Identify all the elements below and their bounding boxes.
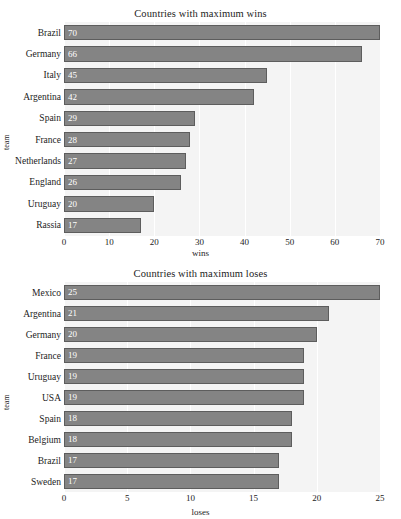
bar[interactable]: 21 <box>64 306 329 321</box>
y-tick-label: Sweden <box>31 477 61 487</box>
bar-row[interactable]: 18 <box>64 411 380 426</box>
bar-row[interactable]: 66 <box>64 46 380 61</box>
bar[interactable]: 25 <box>64 285 380 300</box>
bar-value-label: 17 <box>68 221 77 230</box>
y-tick-slot: Netherlands <box>0 150 61 171</box>
bar[interactable]: 18 <box>64 432 292 447</box>
y-tick-label: Netherlands <box>15 156 61 166</box>
y-tick-slot: Mexico <box>0 282 61 303</box>
bar[interactable]: 20 <box>64 196 154 211</box>
bar-row[interactable]: 17 <box>64 453 380 468</box>
y-tick-label: France <box>35 351 61 361</box>
y-tick-slot: Brazil <box>0 450 61 471</box>
y-tick-label: Uruguay <box>28 372 61 382</box>
bar-row[interactable]: 26 <box>64 175 380 190</box>
y-tick-slot: Argentina <box>0 86 61 107</box>
bar[interactable]: 17 <box>64 474 279 489</box>
x-tick-label: 40 <box>240 237 249 247</box>
x-tick-label: 5 <box>125 493 130 503</box>
bar[interactable]: 18 <box>64 411 292 426</box>
y-tick-slot: Rassia <box>0 215 61 236</box>
bar-value-label: 19 <box>68 351 77 360</box>
y-tick-label: France <box>35 135 61 145</box>
bar[interactable]: 27 <box>64 153 186 168</box>
bar-value-label: 66 <box>68 50 77 59</box>
y-tick-slot: France <box>0 129 61 150</box>
y-tick-slot: Uruguay <box>0 193 61 214</box>
bar[interactable]: 28 <box>64 132 190 147</box>
bar-row[interactable]: 19 <box>64 390 380 405</box>
bar[interactable]: 19 <box>64 369 304 384</box>
x-axis-tick-labels-loses: 0510152025 <box>64 493 380 507</box>
x-tick-label: 0 <box>62 237 67 247</box>
bar-value-label: 27 <box>68 157 77 166</box>
bar-value-label: 28 <box>68 135 77 144</box>
plot-area-loses: 25212019191918181717 <box>64 282 380 492</box>
y-tick-slot: Germany <box>0 43 61 64</box>
bar-row[interactable]: 42 <box>64 89 380 104</box>
bar-row[interactable]: 27 <box>64 153 380 168</box>
y-tick-slot: Argentina <box>0 303 61 324</box>
bar-row[interactable]: 20 <box>64 327 380 342</box>
bar[interactable]: 20 <box>64 327 317 342</box>
chart-countries-maximum-wins: Countries with maximum wins team BrazilG… <box>0 0 401 262</box>
y-tick-slot: Spain <box>0 408 61 429</box>
bar-value-label: 20 <box>68 330 77 339</box>
x-tick-label: 20 <box>150 237 159 247</box>
bar[interactable]: 19 <box>64 390 304 405</box>
bar-row[interactable]: 18 <box>64 432 380 447</box>
y-axis-tick-labels-wins: BrazilGermanyItalyArgentinaSpainFranceNe… <box>0 22 61 236</box>
y-tick-label: Germany <box>26 49 61 59</box>
y-tick-slot: Belgium <box>0 429 61 450</box>
bar-row[interactable]: 17 <box>64 218 380 233</box>
bar-value-label: 17 <box>68 456 77 465</box>
bar-row[interactable]: 45 <box>64 68 380 83</box>
bar-row[interactable]: 17 <box>64 474 380 489</box>
bar-value-label: 20 <box>68 199 77 208</box>
chart-title-loses: Countries with maximum loses <box>0 268 401 279</box>
y-tick-label: USA <box>42 393 61 403</box>
bar-row[interactable]: 19 <box>64 369 380 384</box>
bar-value-label: 29 <box>68 114 77 123</box>
y-tick-label: Argentina <box>23 309 61 319</box>
bar[interactable]: 29 <box>64 111 195 126</box>
y-tick-slot: Germany <box>0 324 61 345</box>
bar-row[interactable]: 20 <box>64 196 380 211</box>
y-tick-slot: France <box>0 345 61 366</box>
bar-value-label: 18 <box>68 414 77 423</box>
x-tick-label: 50 <box>285 237 294 247</box>
x-axis-label-wins: wins <box>0 248 401 258</box>
bar[interactable]: 66 <box>64 46 362 61</box>
bar-value-label: 70 <box>68 28 77 37</box>
x-tick-label: 30 <box>195 237 204 247</box>
y-tick-label: Mexico <box>32 288 61 298</box>
bar-row[interactable]: 70 <box>64 25 380 40</box>
y-tick-slot: Uruguay <box>0 366 61 387</box>
bar-row[interactable]: 19 <box>64 348 380 363</box>
figure-two-bar-charts: Countries with maximum wins team BrazilG… <box>0 0 401 519</box>
bar[interactable]: 26 <box>64 175 181 190</box>
bar[interactable]: 45 <box>64 68 267 83</box>
bar-row[interactable]: 28 <box>64 132 380 147</box>
bar-row[interactable]: 29 <box>64 111 380 126</box>
bar[interactable]: 17 <box>64 218 141 233</box>
bar-row[interactable]: 21 <box>64 306 380 321</box>
y-tick-label: Germany <box>26 330 61 340</box>
y-tick-label: Spain <box>39 113 61 123</box>
y-axis-tick-labels-loses: MexicoArgentinaGermanyFranceUruguayUSASp… <box>0 282 61 492</box>
bar[interactable]: 19 <box>64 348 304 363</box>
chart-title-wins: Countries with maximum wins <box>0 8 401 19</box>
bar-value-label: 19 <box>68 372 77 381</box>
y-tick-label: Brazil <box>38 456 61 466</box>
y-tick-slot: Brazil <box>0 22 61 43</box>
bar[interactable]: 70 <box>64 25 380 40</box>
y-tick-label: Italy <box>44 70 61 80</box>
y-tick-slot: Spain <box>0 108 61 129</box>
bar[interactable]: 17 <box>64 453 279 468</box>
bar-value-label: 25 <box>68 288 77 297</box>
y-tick-label: Spain <box>39 414 61 424</box>
x-tick-label: 20 <box>312 493 321 503</box>
bar-row[interactable]: 25 <box>64 285 380 300</box>
bar-value-label: 26 <box>68 178 77 187</box>
bar[interactable]: 42 <box>64 89 254 104</box>
